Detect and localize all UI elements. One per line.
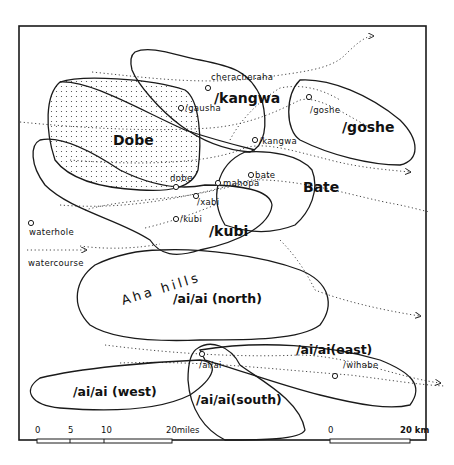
scale-km-end: 20 km: [400, 425, 429, 435]
scale-miles-tick-0: 0: [35, 425, 40, 435]
label-waterhole-wihabe: /wihabe: [343, 360, 379, 370]
waterhole-kubi-icon: [173, 216, 178, 221]
scale-miles-end: 20miles: [166, 425, 200, 435]
label-kangwa: /kangwa: [214, 90, 280, 106]
label-kubi: /kubi: [209, 223, 248, 239]
legend: waterhole watercourse: [27, 220, 86, 268]
label-waterhole-mahopa: mahopa: [223, 178, 259, 188]
legend-watercourse-label: watercourse: [28, 258, 84, 268]
label-waterhole-cheracheraha: cheracheraha: [211, 72, 273, 82]
label-bate: Bate: [303, 179, 339, 195]
waterhole-gausha-icon: [178, 105, 183, 110]
territories: [30, 50, 415, 440]
label-dobe: Dobe: [113, 132, 154, 148]
label-aiai-west: /ai/ai (west): [73, 384, 157, 399]
scale-km-start: 0: [328, 425, 333, 435]
label-goshe: /goshe: [342, 119, 395, 135]
label-waterhole-kangwa: /kangwa: [259, 136, 297, 146]
legend-waterhole-label: waterhole: [29, 227, 74, 237]
label-waterhole-bate: bate: [255, 170, 275, 180]
label-waterhole-dobe: dobe: [170, 173, 192, 183]
waterhole-mahopa-icon: [215, 180, 220, 185]
label-waterhole-xabi: /xabi: [197, 197, 219, 207]
label-aiai-east: /ai/ai(east): [296, 342, 372, 357]
waterhole-kangwa-icon: [252, 137, 257, 142]
territory-map: Dobe /kangwa /goshe Bate /kubi /ai/ai (n…: [0, 0, 454, 465]
waterhole-dobe-icon: [173, 184, 178, 189]
label-aiai-north: /ai/ai (north): [173, 291, 262, 306]
label-aiai-south: /ai/ai(south): [196, 392, 282, 407]
label-waterhole-goshe: /goshe: [310, 105, 340, 115]
scale-miles-tick-10: 10: [101, 425, 112, 435]
waterhole-aiai-icon: [199, 351, 204, 356]
label-waterhole-kubi: /kubi: [180, 214, 202, 224]
label-waterhole-aiai: /ai/ai: [199, 360, 222, 370]
waterhole-bate-icon: [248, 172, 253, 177]
waterhole-goshe-icon: [306, 94, 311, 99]
scale-miles-tick-5: 5: [68, 425, 73, 435]
waterhole-cheracheraha-icon: [205, 85, 210, 90]
waterhole-wihabe-icon: [332, 373, 337, 378]
label-waterhole-gausha: /gausha: [185, 103, 221, 113]
legend-waterhole-icon: [28, 220, 33, 225]
